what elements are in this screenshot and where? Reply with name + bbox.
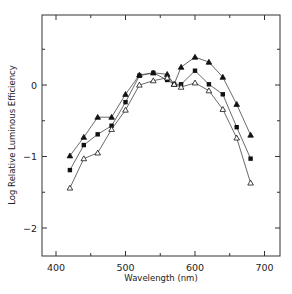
triangle-marker bbox=[67, 185, 73, 190]
triangle-marker bbox=[81, 156, 87, 161]
square-marker bbox=[221, 92, 225, 96]
y-tick-label: −1 bbox=[23, 151, 37, 162]
plot-border bbox=[42, 15, 280, 256]
x-tick-label: 700 bbox=[255, 262, 273, 273]
series-filled-triangle bbox=[67, 54, 253, 158]
square-marker bbox=[248, 156, 252, 160]
triangle-marker bbox=[192, 80, 198, 85]
x-tick-label: 400 bbox=[47, 262, 65, 273]
plot-frame bbox=[42, 15, 280, 256]
square-marker bbox=[235, 125, 239, 129]
square-marker bbox=[123, 100, 127, 104]
y-tick-label: −2 bbox=[23, 223, 37, 234]
square-marker bbox=[96, 132, 100, 136]
triangle-marker bbox=[234, 102, 240, 107]
x-tick-label: 600 bbox=[186, 262, 204, 273]
square-marker bbox=[193, 69, 197, 73]
triangle-marker bbox=[206, 88, 212, 93]
triangle-marker bbox=[95, 150, 101, 155]
triangle-marker bbox=[123, 107, 129, 112]
triangle-marker bbox=[248, 180, 254, 185]
y-axis-title: Log Relative Luminous Efficiency bbox=[7, 65, 17, 205]
triangle-marker bbox=[178, 64, 184, 69]
y-tick-label: 0 bbox=[31, 80, 37, 91]
data-series bbox=[67, 54, 253, 190]
square-marker bbox=[151, 71, 155, 75]
triangle-marker bbox=[234, 135, 240, 140]
x-axis-title: Wavelength (nm) bbox=[124, 273, 197, 283]
square-marker bbox=[207, 82, 211, 86]
triangle-marker bbox=[81, 134, 87, 139]
square-marker bbox=[137, 74, 141, 78]
axis-ticks: 4005006007000−1−2 bbox=[23, 15, 280, 273]
series-open-triangle bbox=[67, 75, 253, 190]
square-marker bbox=[68, 168, 72, 172]
square-marker bbox=[82, 143, 86, 147]
triangle-marker bbox=[192, 54, 198, 59]
x-tick-label: 500 bbox=[116, 262, 134, 273]
triangle-marker bbox=[248, 132, 254, 137]
chart: 4005006007000−1−2 Wavelength (nm) Log Re… bbox=[0, 0, 292, 294]
